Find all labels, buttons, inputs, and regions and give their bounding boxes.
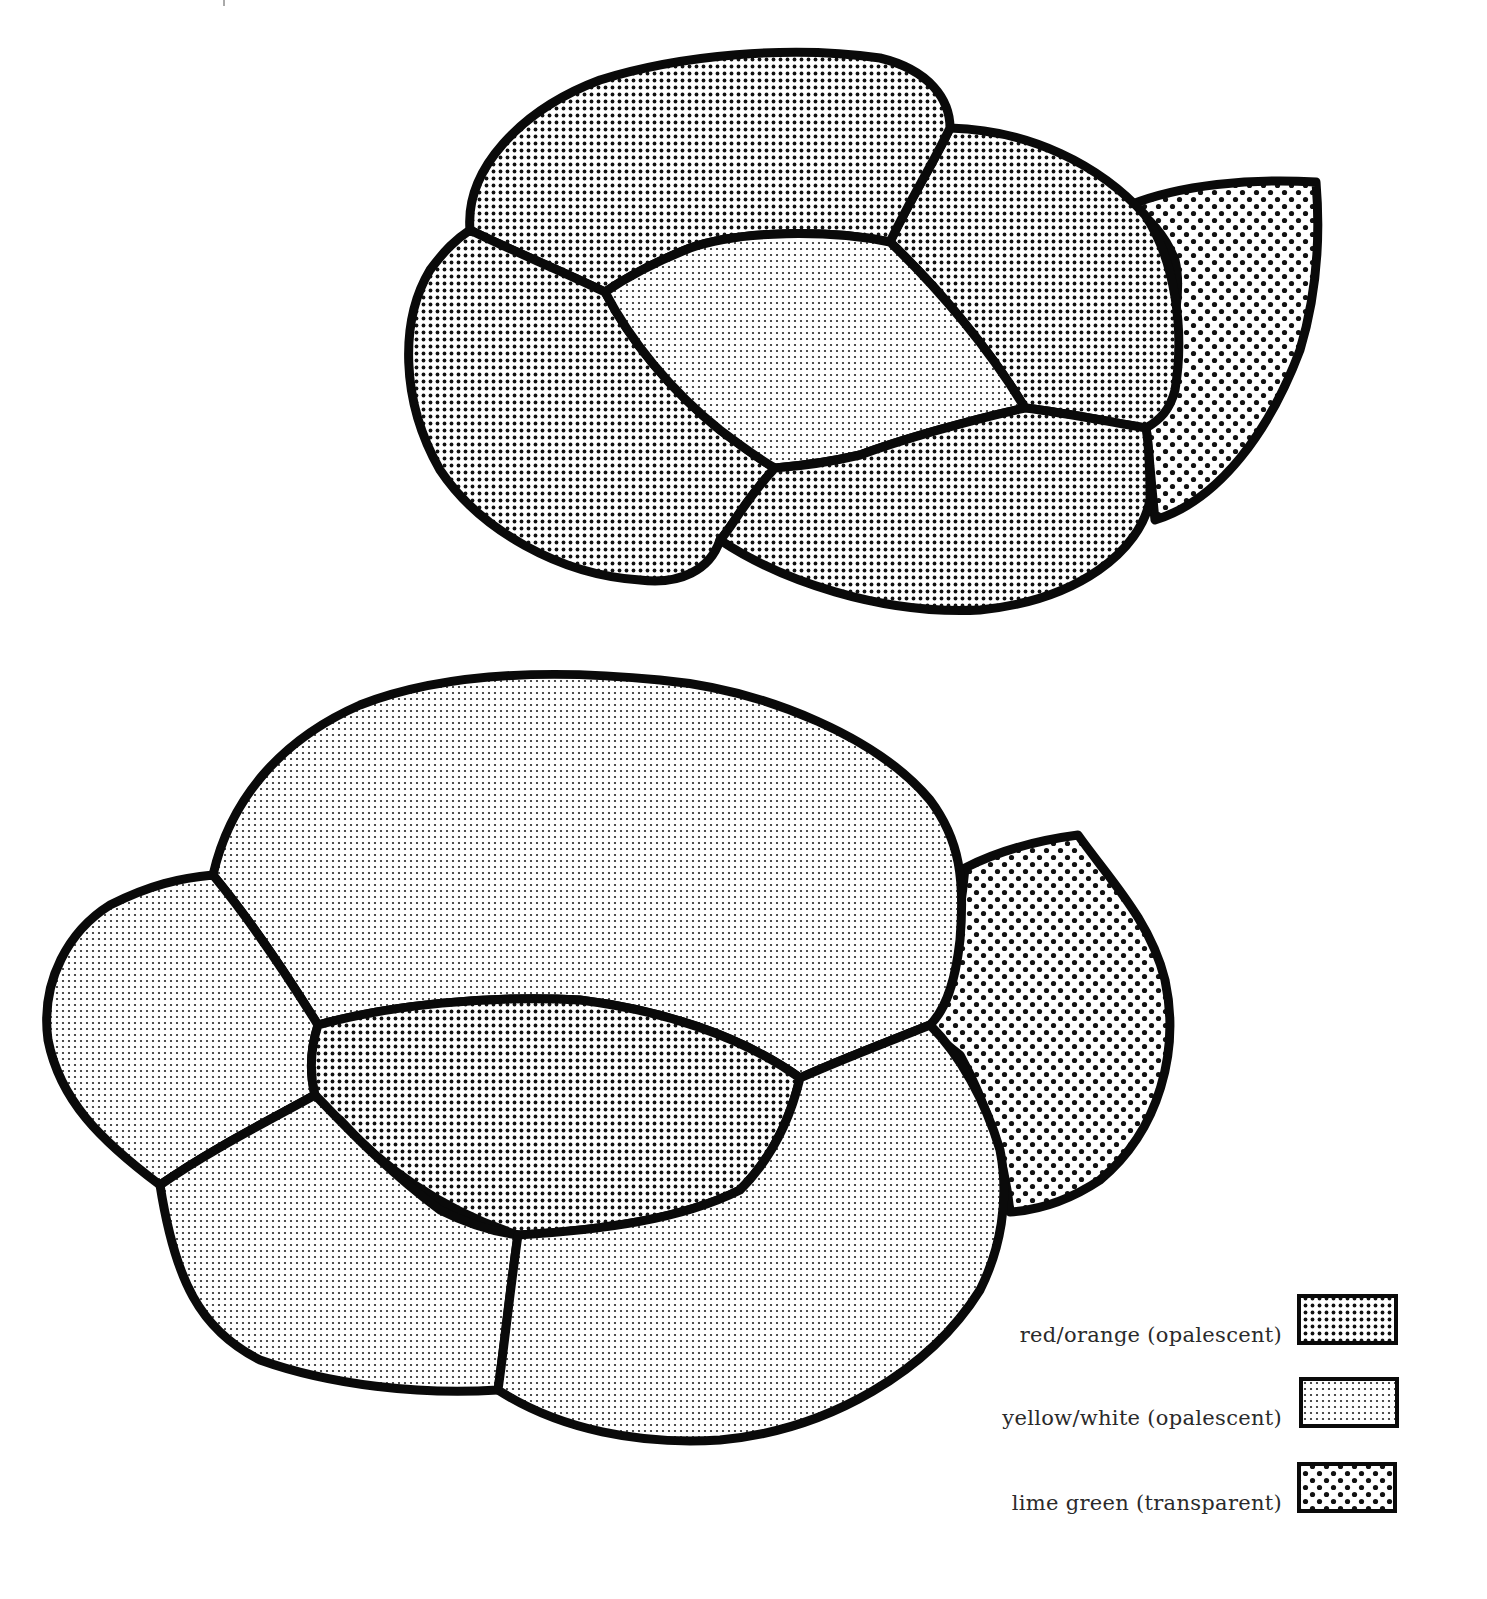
legend-swatch-red-orange (1299, 1296, 1396, 1343)
stained-glass-pattern-diagram: red/orange (opalescent) yellow/white (op… (0, 0, 1487, 1599)
legend-label-lime-green: lime green (transparent) (882, 1491, 1282, 1515)
diagram-canvas (0, 0, 1487, 1599)
legend-swatch-lime-green (1299, 1464, 1395, 1511)
top-cluster (409, 52, 1318, 610)
legend-label-yellow-white: yellow/white (opalescent) (882, 1406, 1282, 1430)
legend-label-red-orange: red/orange (opalescent) (882, 1323, 1282, 1347)
legend-swatch-yellow-white (1301, 1379, 1397, 1426)
legend-swatches (1299, 1296, 1397, 1511)
